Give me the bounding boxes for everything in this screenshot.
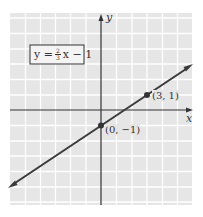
- point-0-neg1: [98, 123, 104, 129]
- equation-rhs: x − 1: [63, 48, 92, 61]
- graph: [0, 0, 203, 217]
- point-3-1: [144, 92, 150, 98]
- fraction-denominator: 3: [56, 55, 60, 61]
- equation-lhs: y =: [34, 48, 53, 61]
- x-axis-label: x: [186, 112, 192, 125]
- y-axis-label: y: [106, 11, 112, 24]
- point-label-0-neg1: (0, −1): [105, 124, 140, 135]
- equation-label: y = 2 3 x − 1: [34, 47, 92, 62]
- point-label-3-1: (3, 1): [152, 90, 179, 101]
- equation-fraction: 2 3: [55, 48, 61, 61]
